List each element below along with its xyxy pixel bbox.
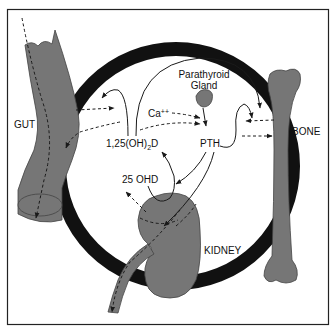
bone-label: BONE [292,126,321,137]
parathyroid-gland: Parathyroid Gland [178,69,229,107]
calcium-label: Ca++ [148,108,169,119]
25-ohd-label: 25 OHD [122,174,158,185]
kidney-organ: KIDNEY [108,193,242,313]
parathyroid-label-2: Gland [191,80,218,91]
vitamin-d-label: 1,25(OH)2D [106,138,158,151]
gut-label: GUT [14,119,35,130]
calcium-regulation-diagram: EXTRACELLULAR FLUID GUT BONE KIDNEY Para… [0,0,336,333]
parathyroid-label-1: Parathyroid [178,69,229,80]
gut-organ: GUT [14,18,79,222]
kidney-label: KIDNEY [204,245,242,256]
pth-label: PTH [200,138,220,149]
